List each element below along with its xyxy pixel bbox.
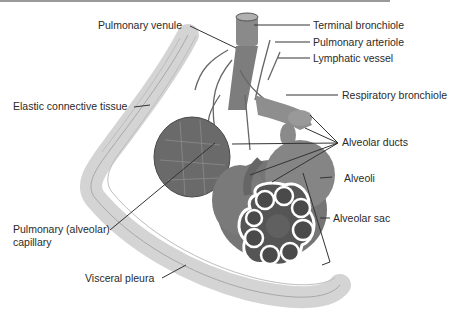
- label-pulmonary-venule: Pulmonary venule: [98, 19, 182, 31]
- label-pulmonary-arteriole: Pulmonary arteriole: [313, 36, 404, 48]
- label-respiratory-bronchiole: Respiratory bronchiole: [342, 89, 447, 101]
- label-pulmonary-capillary-line1: Pulmonary (alveolar): [13, 223, 110, 235]
- label-alveolar-sac: Alveolar sac: [333, 212, 390, 224]
- label-elastic-connective-tissue: Elastic connective tissue: [13, 100, 127, 112]
- label-terminal-bronchiole: Terminal bronchiole: [313, 19, 404, 31]
- label-alveoli: Alveoli: [344, 172, 375, 184]
- label-pulmonary-capillary-line2: capillary: [13, 236, 52, 248]
- label-alveolar-ducts: Alveolar ducts: [342, 136, 408, 148]
- label-visceral-pleura: Visceral pleura: [85, 272, 154, 284]
- respiratory-bronchiole: [255, 95, 312, 147]
- label-lymphatic-vessel: Lymphatic vessel: [313, 52, 393, 64]
- terminal-bronchiole: [228, 13, 258, 110]
